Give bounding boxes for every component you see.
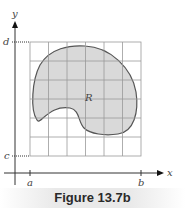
x-axis-arrow-icon [157,170,164,176]
region-label: R [84,92,93,103]
figure-caption: Figure 13.7b [0,190,185,205]
x-axis-label: x [167,167,173,178]
tick-label-b: b [138,177,144,188]
figure-diagram: y x d c a b R [0,0,185,188]
y-axis-arrow-icon [12,21,18,28]
tick-label-a: a [27,177,33,188]
tick-label-d: d [3,36,9,47]
y-axis-label: y [11,8,18,19]
tick-label-c: c [4,150,10,161]
